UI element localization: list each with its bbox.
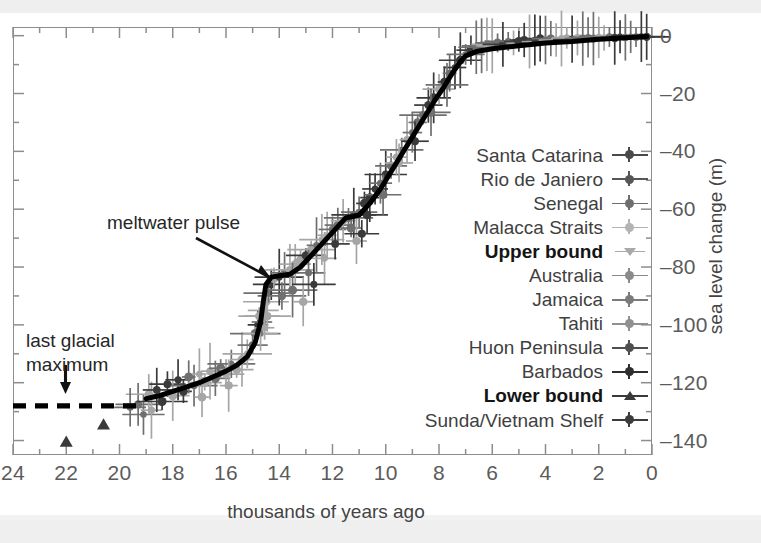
figure-root: 242220181614121086420 0–20–40–60–80–100–… <box>0 0 761 543</box>
legend-marker-cross-dot-icon <box>610 362 650 382</box>
legend-item-barbados[interactable]: Barbados <box>418 360 650 384</box>
legend-item-senegal[interactable]: Senegal <box>418 191 650 215</box>
y-axis-title: sea level change (m) <box>705 158 727 334</box>
legend-marker-cross-dot-icon <box>610 217 650 237</box>
x-tick-label: 22 <box>54 461 78 485</box>
legend-marker-cross-dot-icon <box>610 266 650 286</box>
y-tick-label: –80 <box>660 255 696 279</box>
legend-item-rio-de-janiero[interactable]: Rio de Janiero <box>418 167 650 191</box>
x-tick-label: 12 <box>321 461 345 485</box>
y-tick-label: –40 <box>660 139 696 163</box>
legend: Santa CatarinaRio de JanieroSenegalMalac… <box>418 143 650 432</box>
x-tick-label: 4 <box>540 461 552 485</box>
y-tick-label: –120 <box>660 371 708 395</box>
legend-item-jamaica[interactable]: Jamaica <box>418 288 650 312</box>
legend-marker-cross-dot-icon <box>610 169 650 189</box>
legend-marker-cross-dot-icon <box>610 410 650 430</box>
x-tick-label: 16 <box>214 461 238 485</box>
legend-item-upper-bound[interactable]: Upper bound <box>418 239 650 263</box>
legend-item-label: Barbados <box>522 362 603 381</box>
x-tick-label: 8 <box>433 461 445 485</box>
legend-item-label: Lower bound <box>484 386 603 405</box>
legend-item-label: Jamaica <box>532 290 603 309</box>
x-tick-label: 0 <box>646 461 658 485</box>
annotation-lgm-line2: maximum <box>26 354 108 376</box>
legend-item-label: Santa Catarina <box>476 146 603 165</box>
legend-item-label: Tahiti <box>559 314 603 333</box>
legend-item-label: Huon Peninsula <box>469 338 603 357</box>
legend-item-huon-peninsula[interactable]: Huon Peninsula <box>418 336 650 360</box>
y-tick-label: –100 <box>660 313 708 337</box>
legend-marker-triangle-up-icon <box>610 386 650 406</box>
legend-item-label: Upper bound <box>485 242 603 261</box>
x-tick-label: 20 <box>108 461 132 485</box>
x-tick-label: 18 <box>161 461 185 485</box>
y-tick-label: –60 <box>660 197 696 221</box>
legend-marker-cross-dot-icon <box>610 290 650 310</box>
lower-bound-markers <box>60 418 110 447</box>
x-tick-label: 2 <box>593 461 605 485</box>
legend-item-label: Sunda/Vietnam Shelf <box>425 411 603 430</box>
legend-item-santa-catarina[interactable]: Santa Catarina <box>418 143 650 167</box>
legend-marker-cross-dot-icon <box>610 145 650 165</box>
y-tick-label: 0 <box>660 24 672 48</box>
legend-item-label: Australia <box>529 266 603 285</box>
legend-marker-triangle-down-icon <box>610 241 650 261</box>
legend-item-malacca-straits[interactable]: Malacca Straits <box>418 215 650 239</box>
legend-marker-cross-dot-icon <box>610 193 650 213</box>
legend-item-label: Senegal <box>533 194 603 213</box>
x-tick-label: 6 <box>486 461 498 485</box>
legend-item-label: Rio de Janiero <box>480 170 603 189</box>
legend-item-sunda-vietnam-shelf[interactable]: Sunda/Vietnam Shelf <box>418 408 650 432</box>
meltwater-arrow <box>196 238 271 278</box>
annotation-meltwater-pulse: meltwater pulse <box>107 212 240 234</box>
y-tick-label: –20 <box>660 82 696 106</box>
x-tick-label: 10 <box>374 461 398 485</box>
legend-item-tahiti[interactable]: Tahiti <box>418 312 650 336</box>
legend-marker-cross-dot-icon <box>610 338 650 358</box>
legend-marker-cross-dot-icon <box>610 314 650 334</box>
annotation-lgm-line1: last glacial <box>26 330 115 352</box>
x-tick-label: 24 <box>1 461 25 485</box>
x-axis-title: thousands of years ago <box>227 501 425 523</box>
legend-item-label: Malacca Straits <box>473 218 603 237</box>
y-tick-label: –140 <box>660 429 708 453</box>
legend-item-lower-bound[interactable]: Lower bound <box>418 384 650 408</box>
x-tick-label: 14 <box>267 461 291 485</box>
legend-item-australia[interactable]: Australia <box>418 263 650 287</box>
